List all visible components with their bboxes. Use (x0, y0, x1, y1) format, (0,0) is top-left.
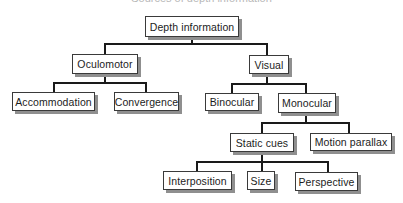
node-motion-parallax: Motion parallax (310, 133, 392, 151)
connector (104, 43, 106, 54)
connector (53, 82, 55, 92)
connector (261, 122, 350, 124)
node-accommodation: Accommodation (12, 92, 95, 111)
node-monocular: Monocular (278, 93, 336, 113)
connector (348, 122, 350, 133)
connector (266, 43, 268, 55)
connector (104, 43, 268, 45)
node-binocular: Binocular (205, 93, 259, 111)
node-visual: Visual (249, 55, 289, 74)
node-static-cues: Static cues (230, 133, 294, 152)
node-convergence: Convergence (114, 92, 179, 111)
connector (231, 83, 307, 85)
connector (261, 122, 263, 133)
connector (196, 161, 329, 163)
node-oculomotor: Oculomotor (72, 54, 138, 74)
node-interposition: Interposition (163, 171, 232, 190)
connector (231, 83, 233, 93)
connector (327, 161, 329, 172)
connector (305, 83, 307, 93)
connector (145, 82, 147, 92)
node-size: Size (247, 171, 275, 190)
node-perspective: Perspective (295, 172, 358, 191)
diagram-title: Sources of depth information (0, 0, 403, 4)
node-depth-information: Depth information (145, 16, 239, 37)
connector (196, 161, 198, 171)
connector (53, 82, 147, 84)
